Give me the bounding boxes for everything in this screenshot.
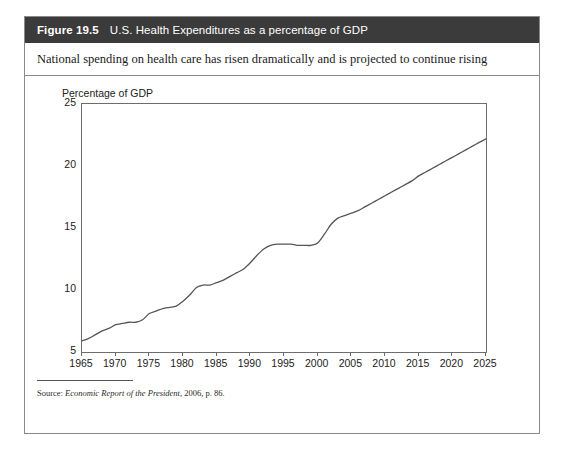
- figure-number-label: Figure 19.5: [37, 24, 99, 36]
- line-chart-svg: [82, 104, 486, 352]
- figure-container: Figure 19.5 U.S. Health Expenditures as …: [24, 16, 540, 434]
- figure-title: U.S. Health Expenditures as a percentage…: [110, 24, 368, 36]
- source-prefix: Source:: [37, 388, 63, 398]
- figure-header-bar: Figure 19.5 U.S. Health Expenditures as …: [25, 17, 539, 43]
- x-tick-label-2025: 2025: [465, 357, 505, 369]
- y-tick-label-25: 25: [50, 96, 76, 108]
- figure-subtitle-text: National spending on health care has ris…: [37, 52, 487, 67]
- source-divider-rule: [37, 380, 133, 381]
- y-tick-label-15: 15: [50, 220, 76, 232]
- figure-subtitle: National spending on health care has ris…: [25, 43, 539, 76]
- plot-frame: [81, 103, 487, 353]
- plot-region: Percentage of GDP 510152025 196519701975…: [25, 76, 539, 379]
- y-tick-label-20: 20: [50, 158, 76, 170]
- y-tick-label-10: 10: [50, 282, 76, 294]
- source-suffix: , 2006, p. 86.: [180, 388, 225, 398]
- source-text: Source: Economic Report of the President…: [37, 388, 527, 398]
- y-tick-label-5: 5: [50, 344, 76, 356]
- source-publication-title: Economic Report of the President: [65, 388, 180, 398]
- series-line-health-expenditures: [82, 139, 486, 341]
- source-note: Source: Economic Report of the President…: [25, 380, 539, 398]
